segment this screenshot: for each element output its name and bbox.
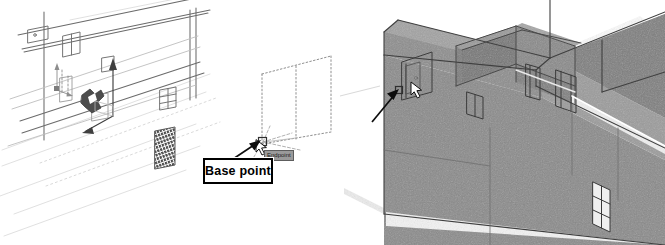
trim-band-left: [344, 188, 384, 214]
figure-canvas: Endpoint Base point: [0, 0, 665, 245]
window-grid-hatched: [155, 127, 175, 169]
faint-link-line: [340, 86, 380, 96]
panel-wireframe-elevation: Endpoint Base point: [0, 0, 340, 245]
construction-lines: [0, 0, 210, 236]
shaded-3d-model: [340, 0, 665, 245]
window-double: [63, 32, 80, 57]
window-upper-left: [28, 26, 48, 43]
selected-object-glyph: [81, 89, 104, 113]
window-mullion: [160, 87, 176, 110]
callout-base-point: Base point: [203, 158, 273, 184]
wireframe-drawing: [0, 0, 340, 245]
move-gizmo-ghost: [54, 63, 73, 97]
ghost-selection-box: [262, 56, 331, 144]
model-solid: [344, 14, 665, 245]
panel-shaded-3d: Endpoint Destination point: [340, 0, 665, 245]
